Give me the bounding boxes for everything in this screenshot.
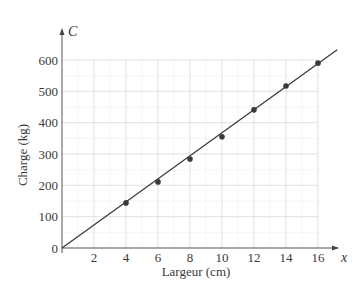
- data-point: [155, 179, 161, 185]
- x-tick-label: 4: [123, 250, 130, 265]
- x-axis-label: Largeur (cm): [162, 264, 231, 279]
- data-point: [315, 60, 321, 66]
- x-tick-label: 2: [91, 250, 98, 265]
- x-tick-label: 10: [216, 250, 229, 265]
- y-tick-label: 600: [39, 53, 59, 68]
- data-point: [251, 107, 257, 113]
- y-tick-label: 100: [39, 209, 59, 224]
- x-tick-label: 12: [248, 250, 261, 265]
- data-point: [187, 156, 193, 162]
- x-tick-label: 6: [155, 250, 162, 265]
- y-tick-label: 300: [39, 147, 59, 162]
- tick-labels: 2468101214160100200300400500600: [39, 53, 326, 265]
- data-point: [219, 134, 225, 140]
- y-axis-label: Charge (kg): [15, 124, 30, 186]
- y-axis-variable: C: [68, 24, 78, 39]
- x-tick-label: 16: [312, 250, 326, 265]
- y-tick-label: 500: [39, 84, 59, 99]
- y-tick-label: 200: [39, 178, 59, 193]
- chart: 2468101214160100200300400500600 Largeur …: [0, 0, 361, 289]
- data-point: [283, 83, 289, 89]
- regression-line: [62, 50, 337, 248]
- y-tick-label: 400: [39, 115, 59, 130]
- y-tick-label: 0: [52, 241, 59, 256]
- x-tick-label: 8: [187, 250, 194, 265]
- x-tick-label: 14: [280, 250, 294, 265]
- x-axis-variable: x: [340, 250, 348, 265]
- data-point: [123, 200, 129, 206]
